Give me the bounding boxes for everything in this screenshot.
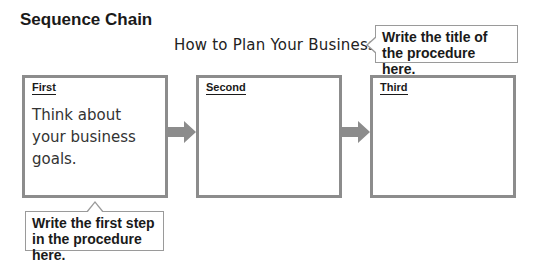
step-label: Third [380,81,408,95]
procedure-title: How to Plan Your Business [174,36,376,54]
page-heading: Sequence Chain [20,10,152,30]
step-box-second: Second [196,75,342,198]
step-box-first: First Think about your business goals. [22,75,168,198]
step-content: Think about your business goals. [32,104,159,170]
title-hint-callout: Write the title of the procedure here. [375,25,518,63]
first-step-hint-callout: Write the first step in the procedure he… [25,211,164,251]
right-arrow-icon [168,121,196,143]
step-label: First [32,81,56,95]
step-label: Second [206,81,246,95]
step-box-third: Third [370,75,516,198]
right-arrow-icon [342,121,370,143]
